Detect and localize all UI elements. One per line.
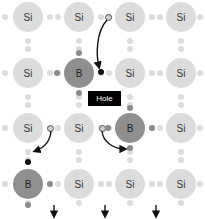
electron-move-arrow-1 — [97, 20, 107, 67]
boron-doping-diagram: SiSiSiSiSiBSiSiSiSiBSiBSiSiSi Hole — [0, 0, 205, 219]
movement-arrows — [0, 0, 205, 219]
electron-move-arrow-2 — [35, 131, 51, 151]
hole-label: Hole — [88, 91, 121, 106]
electron-move-arrow-3 — [102, 131, 125, 149]
down-arrow-icons — [54, 205, 156, 216]
